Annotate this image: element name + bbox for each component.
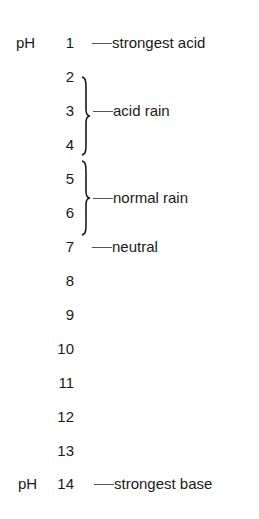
ph-row-14: pH 14 strongest base [0,474,259,494]
ph-row-12: 12 [0,407,259,427]
ph-value: 8 [66,271,74,291]
ph-label-strongest-acid: strongest acid [92,33,205,53]
dash-icon [93,198,113,199]
ph-value: 11 [58,373,74,393]
range-label-normal-rain: normal rain [93,188,188,208]
ph-row-4: 4 [0,135,259,155]
ph-value: 9 [66,305,74,325]
ph-prefix: pH [16,33,35,53]
ph-row-10: 10 [0,339,259,359]
ph-value: 10 [57,339,74,359]
ph-value: 2 [66,67,74,87]
ph-value: 6 [66,203,74,223]
ph-value: 3 [66,101,74,121]
range-label-acid-rain: acid rain [93,101,170,121]
ph-value: 13 [57,441,74,461]
ph-row-9: 9 [0,305,259,325]
ph-row-1: pH 1 strongest acid [0,33,259,53]
ph-value: 7 [66,237,74,257]
label-text: strongest acid [112,34,205,51]
dash-icon [92,43,112,44]
dash-icon [92,247,112,248]
dash-icon [94,484,114,485]
ph-prefix: pH [18,474,37,494]
label-text: acid rain [113,102,170,119]
ph-row-5: 5 [0,169,259,189]
ph-value: 5 [66,169,74,189]
ph-row-11: 11 [0,373,259,393]
ph-value: 12 [57,407,74,427]
label-text: strongest base [114,475,212,492]
ph-label-neutral: neutral [92,237,158,257]
ph-row-7: 7 neutral [0,237,259,257]
ph-row-13: 13 [0,441,259,461]
ph-label-strongest-base: strongest base [94,474,212,494]
ph-value: 4 [66,135,74,155]
curly-brace-icon [80,76,92,156]
ph-row-8: 8 [0,271,259,291]
curly-brace-icon [80,160,92,236]
ph-value: 1 [66,33,74,53]
ph-value: 14 [57,474,74,494]
label-text: normal rain [113,189,188,206]
label-text: neutral [112,238,158,255]
dash-icon [93,111,113,112]
ph-scale-diagram: pH 1 strongest acid 2 3 4 5 6 7 neutral … [0,0,259,519]
ph-row-2: 2 [0,67,259,87]
